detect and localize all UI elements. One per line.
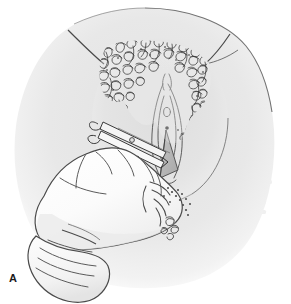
panel-label: A [9, 272, 17, 284]
scissors-pivot-screw [130, 138, 135, 143]
episiotomy-illustration [0, 0, 291, 304]
figure-panel: A [0, 0, 291, 304]
